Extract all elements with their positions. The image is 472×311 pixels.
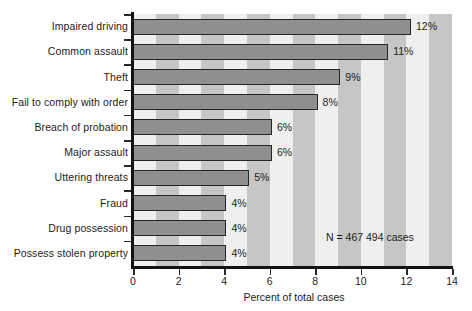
y-axis-tick [124,140,131,142]
y-axis-tick [124,14,131,16]
bar-value-label: 4% [231,248,246,259]
y-axis-tick [124,190,131,192]
bar-value-label: 5% [254,172,269,183]
y-axis-tick [124,39,131,41]
x-axis-tick-label: 8 [312,276,318,287]
category-label: Impaired driving [0,21,128,32]
x-axis-tick-label: 4 [221,276,227,287]
x-axis-tick-label: 0 [130,276,136,287]
x-axis-tick-label: 14 [446,276,458,287]
bar-value-label: 6% [277,147,292,158]
x-axis-tick-label: 10 [355,276,367,287]
y-axis-tick [124,115,131,117]
bar-chart: 12%11%9%8%6%6%5%4%4%4% Impaired drivingC… [0,0,472,311]
x-axis-title: Percent of total cases [0,292,472,303]
category-label: Theft [0,72,128,83]
x-axis-title-text: Percent of total cases [244,291,345,303]
sample-size-annotation: N = 467 494 cases [326,232,414,243]
category-label: Drug possession [0,223,128,234]
x-axis-tick-label: 2 [176,276,182,287]
bar-value-label: 4% [231,223,246,234]
bar-value-label: 4% [231,198,246,209]
x-axis-tick-label: 12 [401,276,413,287]
value-labels-layer: 12%11%9%8%6%6%5%4%4%4% [133,14,472,266]
bar-value-label: 12% [416,21,437,32]
bar-value-label: 11% [393,46,413,57]
y-axis-tick [124,241,131,243]
category-label: Major assault [0,147,128,158]
category-label: Fraud [0,198,128,209]
y-axis-tick [124,216,131,218]
y-axis-tick [124,64,131,66]
category-label: Fail to comply with order [0,97,128,108]
y-axis-tick [124,90,131,92]
bar-value-label: 9% [345,72,360,83]
y-axis-line [131,12,134,268]
category-label: Common assault [0,46,128,57]
category-axis-labels: Impaired drivingCommon assaultTheftFail … [0,14,128,266]
category-label: Uttering threats [0,172,128,183]
x-axis-tick-label: 6 [267,276,273,287]
category-label: Breach of probation [0,122,128,133]
y-axis-tick [124,165,131,167]
category-label: Possess stolen property [0,248,128,259]
bar-value-label: 6% [277,122,292,133]
bar-value-label: 8% [323,97,338,108]
